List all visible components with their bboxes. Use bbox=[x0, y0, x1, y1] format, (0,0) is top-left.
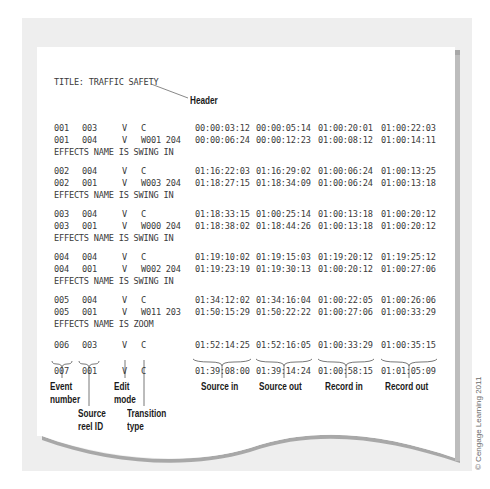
cell-edit-mode: V bbox=[122, 252, 127, 262]
cell-source-in: 01:34:12:02 bbox=[195, 295, 250, 305]
cell-record-in: 01:19:20:12 bbox=[318, 252, 373, 262]
cell-event-number: 002 bbox=[54, 166, 69, 176]
effects-note: EFFECTS NAME IS SWING IN bbox=[54, 276, 173, 286]
cell-event-number: 006 bbox=[54, 340, 69, 350]
cell-event-number: 004 bbox=[54, 264, 69, 274]
label-record-in: Record in bbox=[325, 380, 363, 393]
cell-record-in: 01:00:06:24 bbox=[318, 166, 373, 176]
cell-source-reel-id: 003 bbox=[82, 123, 97, 133]
cell-record-out: 01:00:26:06 bbox=[381, 295, 436, 305]
header-callout-label: Header bbox=[190, 94, 218, 107]
cell-source-out: 01:50:22:22 bbox=[256, 307, 311, 317]
cell-transition-type: W002 204 bbox=[141, 264, 181, 274]
cell-source-reel-id: 004 bbox=[82, 166, 97, 176]
cell-edit-mode: V bbox=[122, 209, 127, 219]
cell-source-in: 01:18:33:15 bbox=[195, 209, 250, 219]
cell-record-in: 01:00:20:01 bbox=[318, 123, 373, 133]
cell-edit-mode: V bbox=[122, 166, 127, 176]
cell-transition-type: W001 204 bbox=[141, 135, 181, 145]
cell-edit-mode: V bbox=[122, 307, 127, 317]
label-source-out: Source out bbox=[259, 380, 302, 393]
cell-source-reel-id: 001 bbox=[82, 178, 97, 188]
cell-record-out: 01:00:14:11 bbox=[381, 135, 436, 145]
label-edit-mode-text: Edit mode bbox=[114, 381, 136, 405]
label-edit-mode: Edit mode bbox=[114, 380, 136, 406]
cell-source-reel-id: 001 bbox=[82, 307, 97, 317]
cell-source-out: 01:19:30:13 bbox=[256, 264, 311, 274]
cell-transition-type: C bbox=[141, 209, 146, 219]
cell-record-in: 01:00:06:24 bbox=[318, 178, 373, 188]
cell-event-number: 002 bbox=[54, 178, 69, 188]
cell-record-out: 01:00:20:12 bbox=[381, 209, 436, 219]
cell-source-in: 01:18:27:15 bbox=[195, 178, 250, 188]
cell-record-in: 01:00:13:18 bbox=[318, 221, 373, 231]
cell-source-in: 01:18:38:02 bbox=[195, 221, 250, 231]
cell-source-in: 00:00:03:12 bbox=[195, 123, 250, 133]
effects-note: EFFECTS NAME IS ZOOM bbox=[54, 319, 153, 329]
cell-source-out: 01:16:29:02 bbox=[256, 166, 311, 176]
cell-record-in: 01:00:22:05 bbox=[318, 295, 373, 305]
cell-edit-mode: V bbox=[122, 366, 127, 376]
cell-record-out: 01:00:13:25 bbox=[381, 166, 436, 176]
cell-source-reel-id: 004 bbox=[82, 295, 97, 305]
cell-event-number: 001 bbox=[54, 123, 69, 133]
cell-record-out: 01:00:27:06 bbox=[381, 264, 436, 274]
label-record-out: Record out bbox=[385, 380, 428, 393]
cell-edit-mode: V bbox=[122, 295, 127, 305]
cell-event-number: 007 bbox=[54, 366, 69, 376]
cell-edit-mode: V bbox=[122, 221, 127, 231]
edl-title-line: TITLE: TRAFFIC SAFETY bbox=[54, 77, 158, 87]
cell-record-in: 01:00:08:12 bbox=[318, 135, 373, 145]
cell-source-reel-id: 001 bbox=[82, 366, 97, 376]
label-event-number-text: Event number bbox=[50, 381, 80, 405]
cell-event-number: 003 bbox=[54, 209, 69, 219]
cell-record-out: 01:01:05:09 bbox=[381, 366, 436, 376]
cell-edit-mode: V bbox=[122, 340, 127, 350]
cell-source-reel-id: 001 bbox=[82, 221, 97, 231]
cell-source-reel-id: 003 bbox=[82, 340, 97, 350]
cell-source-in: 01:52:14:25 bbox=[195, 340, 250, 350]
cell-source-in: 01:16:22:03 bbox=[195, 166, 250, 176]
cell-source-in: 00:00:06:24 bbox=[195, 135, 250, 145]
cell-edit-mode: V bbox=[122, 123, 127, 133]
label-source-reel-id: Source reel ID bbox=[78, 407, 106, 433]
cell-event-number: 004 bbox=[54, 252, 69, 262]
cell-record-out: 01:00:22:03 bbox=[381, 123, 436, 133]
cell-transition-type: C bbox=[141, 340, 146, 350]
label-source-reel-id-text: Source reel ID bbox=[78, 408, 106, 432]
label-source-in: Source in bbox=[201, 380, 238, 393]
cell-transition-type: C bbox=[141, 366, 146, 376]
label-event-number: Event number bbox=[50, 380, 80, 406]
cell-record-in: 01:00:58:15 bbox=[318, 366, 373, 376]
cell-record-in: 01:00:27:06 bbox=[318, 307, 373, 317]
cell-event-number: 005 bbox=[54, 307, 69, 317]
cell-source-out: 00:00:05:14 bbox=[256, 123, 311, 133]
cell-source-in: 01:19:23:19 bbox=[195, 264, 250, 274]
effects-note: EFFECTS NAME IS SWING IN bbox=[54, 190, 173, 200]
cell-source-out: 01:18:44:26 bbox=[256, 221, 311, 231]
cell-edit-mode: V bbox=[122, 264, 127, 274]
cell-transition-type: C bbox=[141, 252, 146, 262]
cell-source-out: 01:19:15:03 bbox=[256, 252, 311, 262]
cell-source-out: 01:39:14:24 bbox=[256, 366, 311, 376]
paper-sheet bbox=[0, 0, 490, 489]
cell-event-number: 003 bbox=[54, 221, 69, 231]
cell-record-in: 01:00:20:12 bbox=[318, 264, 373, 274]
cell-source-reel-id: 004 bbox=[82, 209, 97, 219]
effects-note: EFFECTS NAME IS SWING IN bbox=[54, 233, 173, 243]
cell-source-out: 01:52:16:05 bbox=[256, 340, 311, 350]
cell-source-reel-id: 004 bbox=[82, 135, 97, 145]
cell-record-out: 01:19:25:12 bbox=[381, 252, 436, 262]
cell-source-in: 01:19:10:02 bbox=[195, 252, 250, 262]
cell-transition-type: W000 204 bbox=[141, 221, 181, 231]
cell-source-reel-id: 004 bbox=[82, 252, 97, 262]
cell-record-in: 01:00:33:29 bbox=[318, 340, 373, 350]
cell-record-out: 01:00:13:18 bbox=[381, 178, 436, 188]
effects-note: EFFECTS NAME IS SWING IN bbox=[54, 147, 173, 157]
cell-transition-type: W011 203 bbox=[141, 307, 181, 317]
cell-record-in: 01:00:13:18 bbox=[318, 209, 373, 219]
paper-right-shadow bbox=[455, 55, 460, 461]
cell-edit-mode: V bbox=[122, 178, 127, 188]
cell-source-out: 01:34:16:04 bbox=[256, 295, 311, 305]
cell-record-out: 01:00:20:12 bbox=[381, 221, 436, 231]
